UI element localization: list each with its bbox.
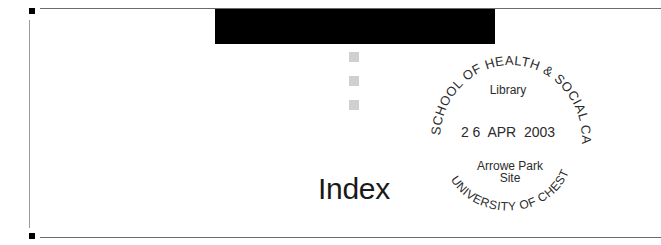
corner-mark-top-left bbox=[29, 8, 35, 14]
bottom-rule bbox=[40, 237, 661, 238]
corner-mark-bottom-left bbox=[29, 233, 35, 239]
left-rule bbox=[29, 20, 30, 228]
stamp-library-label: Library bbox=[490, 83, 527, 97]
decorative-square bbox=[349, 100, 359, 110]
library-stamp: SCHOOL OF HEALTH & SOCIAL CARE UNIVERSIT… bbox=[418, 22, 598, 222]
decorative-square bbox=[349, 76, 359, 86]
stamp-graphic: SCHOOL OF HEALTH & SOCIAL CARE UNIVERSIT… bbox=[418, 22, 598, 222]
decorative-square bbox=[349, 52, 359, 62]
book-page: Index SCHOOL OF HEALTH & SOCIAL CARE UNI… bbox=[0, 0, 661, 245]
stamp-site-line2: Site bbox=[500, 171, 521, 185]
stamp-date: 2 6 APR 2003 bbox=[461, 124, 555, 140]
section-title: Index bbox=[318, 172, 390, 206]
